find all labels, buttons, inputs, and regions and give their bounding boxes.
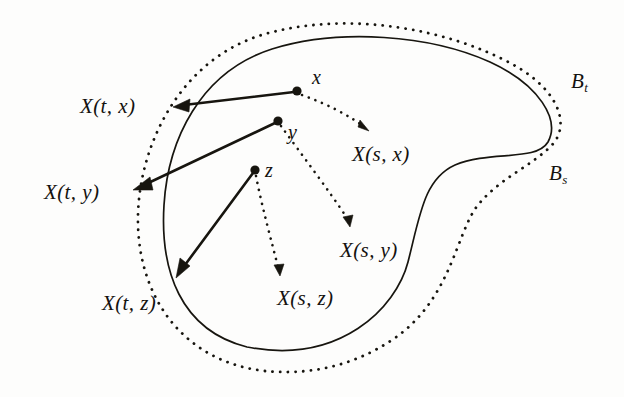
arrow-z-to-xtz	[176, 173, 253, 278]
point-label-z: z	[265, 160, 273, 180]
image-label-xsz: X(s, z)	[277, 288, 333, 309]
image-label-xty: X(t, y)	[44, 182, 99, 203]
figure-canvas: x y z X(t, x) X(t, y) X(t, z) X(s, x) X(…	[0, 0, 624, 397]
point-label-x: x	[312, 67, 321, 87]
image-label-xtz: X(t, z)	[102, 293, 156, 314]
arrow-z-to-xsz	[256, 176, 284, 276]
region-label-bt-subscript: t	[584, 80, 588, 95]
image-label-xsx: X(s, x)	[352, 144, 410, 165]
region-boundary-bs	[138, 23, 561, 372]
point-label-y: y	[288, 122, 297, 142]
region-label-bt-base: B	[571, 69, 584, 93]
region-boundary-bt	[164, 37, 552, 351]
arrow-y-to-xty	[133, 123, 275, 190]
region-label-bs-subscript: s	[562, 172, 567, 187]
arrow-x-to-xtx	[173, 92, 294, 112]
region-label-bs: Bs	[549, 163, 567, 186]
region-label-bt: Bt	[571, 71, 588, 94]
region-label-bs-base: B	[549, 161, 562, 185]
image-label-xsy: X(s, y)	[340, 240, 398, 261]
arrow-x-to-xsx	[302, 95, 369, 131]
image-label-xtx: X(t, x)	[80, 96, 135, 117]
